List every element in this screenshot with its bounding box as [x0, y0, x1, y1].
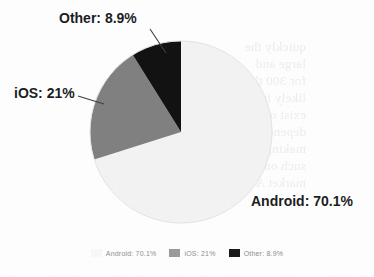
chart-legend: Android: 70.1% iOS: 21% Other: 8.9%	[0, 249, 374, 257]
legend-swatch-other-icon	[229, 249, 240, 257]
legend-item-android: Android: 70.1%	[91, 249, 157, 257]
legend-label-other: Other: 8.9%	[244, 250, 284, 257]
legend-swatch-android-icon	[91, 249, 102, 257]
slice-label-android: Android: 70.1%	[251, 193, 353, 209]
legend-label-android: Android: 70.1%	[106, 250, 157, 257]
legend-label-ios: iOS: 21%	[184, 250, 215, 257]
slice-label-other: Other: 8.9%	[59, 10, 137, 26]
legend-swatch-ios-icon	[169, 249, 180, 257]
legend-item-other: Other: 8.9%	[229, 249, 284, 257]
legend-item-ios: iOS: 21%	[169, 249, 215, 257]
slice-label-ios: iOS: 21%	[14, 85, 75, 101]
